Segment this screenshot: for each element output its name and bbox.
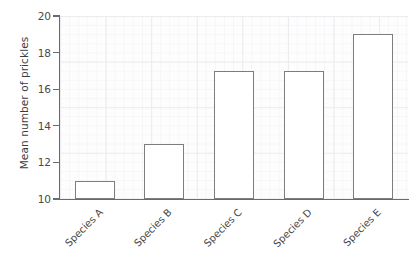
y-axis-tick [53, 125, 59, 126]
y-axis-tick-label: 12 [0, 157, 51, 168]
y-axis-tick [53, 162, 59, 163]
bar-species-c [214, 71, 254, 199]
y-axis-tick [53, 52, 59, 53]
y-axis-tick [53, 15, 59, 16]
bar-chart: Mean number of prickles 101214161820 Spe… [0, 0, 420, 259]
y-axis-tick-label: 14 [0, 121, 51, 132]
y-axis-tick [53, 89, 59, 90]
y-axis-tick-label: 18 [0, 48, 51, 59]
bar-species-b [144, 144, 184, 199]
bar-species-a [75, 181, 115, 199]
y-axis-tick-label: 20 [0, 11, 51, 22]
bar-species-e [353, 34, 393, 199]
bars-layer [60, 16, 408, 199]
y-axis-tick [53, 198, 59, 199]
x-axis-line [59, 199, 409, 200]
bar-species-d [284, 71, 324, 199]
y-axis-tick-label: 16 [0, 84, 51, 95]
x-axis-tick-label: Species A [0, 207, 105, 259]
y-axis-tick-label: 10 [0, 194, 51, 205]
